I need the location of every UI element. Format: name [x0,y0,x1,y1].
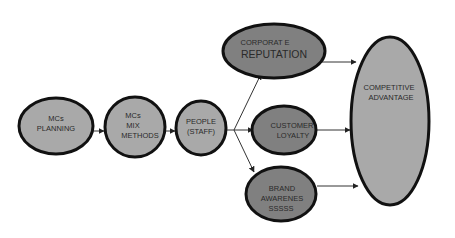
node-customer-loyalty: CUSTOMER LOYALTY [252,106,316,154]
node-label-line: SSSSS [268,204,293,213]
node-corporate-reputation: CORPORAT E REPUTATION [223,24,325,78]
node-competitive-advantage: COMPETITIVE ADVANTAGE [351,37,429,205]
node-people-staff: PEOPLE (STAFF) [176,101,226,155]
flow-diagram: MCs PLANNING MCs MIX METHODS PEOPLE (STA… [0,0,455,238]
node-mcs-mix-methods: MCs MIX METHODS [105,97,165,157]
node-label-line: PEOPLE [186,117,216,126]
node-label-line: ADVANTAGE [368,93,413,102]
arrow-people-to-brand [234,130,254,172]
node-label-line: MIX [126,121,139,130]
node-label-line: CUSTOMER [271,121,314,130]
node-label-line: CORPORAT E [241,38,290,47]
node-mcs-planning: MCs PLANNING [19,98,93,154]
node-shape [351,37,429,205]
node-label-line: (STAFF) [187,127,216,136]
node-label-line: LOYALTY [277,131,310,140]
node-label-line: COMPETITIVE [364,83,415,92]
node-label-line: AWARENES [261,194,303,203]
node-label-line: PLANNING [37,124,76,133]
node-label-line: BRAND [269,184,296,193]
node-label-line: METHODS [121,131,159,140]
node-brand-awareness: BRAND AWARENES SSSSS [246,167,316,221]
node-label-line: MCs [48,114,64,123]
node-shape [252,106,316,154]
node-label-line: MCs [125,111,141,120]
node-label-line: REPUTATION [241,48,307,60]
